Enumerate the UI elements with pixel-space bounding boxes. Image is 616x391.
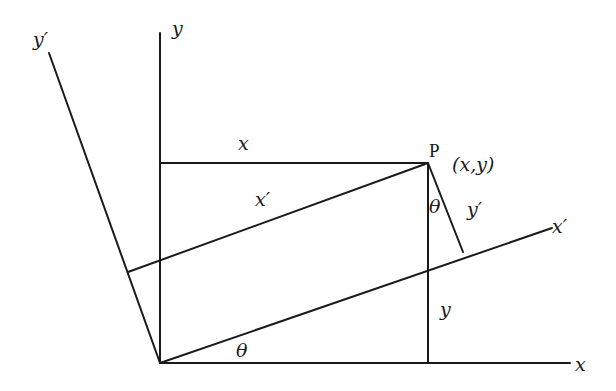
y-segment-label: y xyxy=(439,298,451,320)
rotation-diagram: y y′ x x′ x x′ y y′ P (x,y) θ θ xyxy=(0,0,616,391)
x-axis-label: x xyxy=(575,353,586,375)
x-segment-label: x xyxy=(238,132,249,154)
point-p-label: P xyxy=(429,140,440,161)
y-axis-label: y xyxy=(171,17,183,39)
theta-at-p-label: θ xyxy=(429,195,441,217)
y-prime-axis-label: y′ xyxy=(32,28,49,50)
y-prime-segment-label: y′ xyxy=(466,198,483,220)
y-prime-axis xyxy=(49,53,160,363)
parallel-to-x-prime xyxy=(128,163,428,272)
x-prime-axis-label: x′ xyxy=(552,215,568,237)
theta-origin-label: θ xyxy=(236,339,248,361)
x-prime-axis xyxy=(160,228,552,363)
point-coords-label: (x,y) xyxy=(452,153,494,175)
x-prime-segment-label: x′ xyxy=(255,188,271,210)
